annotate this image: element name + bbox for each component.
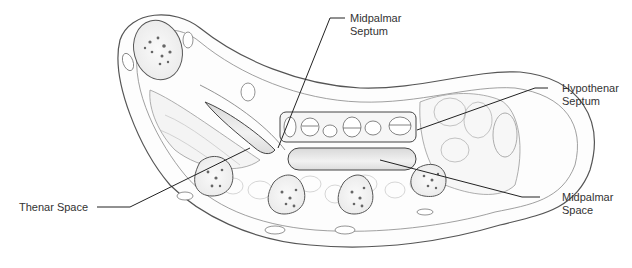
label-midpalmar-septum: Midpalmar Septum [350, 12, 401, 38]
anatomical-illustration: Midpalmar Septum Hypothenar Septum Thena… [0, 0, 632, 268]
hand-cross-section-drawing [0, 0, 632, 268]
label-hypothenar-septum: Hypothenar Septum [562, 82, 619, 108]
midpalmar-space-shape [288, 148, 416, 170]
label-midpalmar-space: Midpalmar Space [562, 191, 613, 217]
label-thenar-space: Thenar Space [19, 201, 88, 214]
